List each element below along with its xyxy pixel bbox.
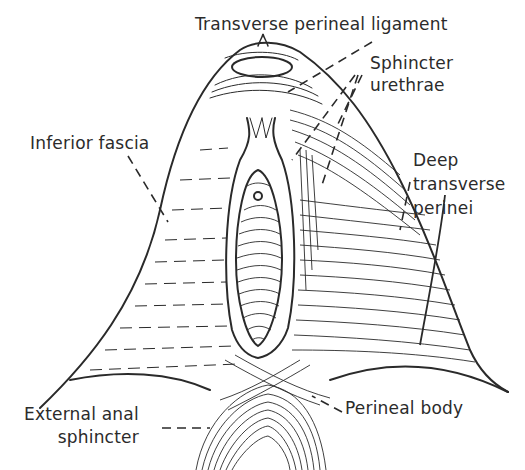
label-external-anal-sphincter: External anal sphincter xyxy=(24,403,139,449)
leader-sphincter-urethrae-1 xyxy=(292,75,355,160)
transverse-perineal-ligament-shape xyxy=(210,34,322,104)
label-deep-transverse-perinei: Deep transverse perinei xyxy=(413,148,506,220)
label-sphincter-urethrae: Sphincter urethrae xyxy=(370,52,453,96)
urogenital-diaphragm-outline xyxy=(40,43,508,408)
label-transverse-perineal-ligament: Transverse perineal ligament xyxy=(195,14,448,34)
anatomy-figure: Transverse perineal ligament Sphincter u… xyxy=(0,0,525,470)
external-anal-sphincter-arcs xyxy=(196,355,330,470)
label-inferior-fascia: Inferior fascia xyxy=(30,133,150,153)
label-perineal-body: Perineal body xyxy=(345,398,463,418)
vaginal-orifice-shape xyxy=(226,118,294,358)
leader-sphincter-urethrae-3 xyxy=(336,75,362,128)
inferior-fascia-hatching xyxy=(90,148,238,370)
leader-transverse-perineal-ligament xyxy=(288,42,372,92)
leader-inferior-fascia xyxy=(128,156,168,222)
